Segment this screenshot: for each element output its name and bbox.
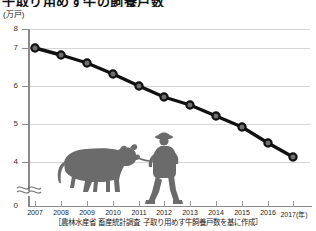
cow-silhouette — [58, 144, 140, 192]
x-tick-2014 — [216, 201, 217, 207]
gridline-5 — [28, 124, 310, 125]
axis-break-icon — [16, 183, 42, 197]
y-tick-5 — [22, 124, 28, 125]
x-tick-label-2016: 2016 — [260, 209, 276, 216]
y-tick-8 — [22, 29, 28, 30]
y-tick-7 — [22, 48, 28, 49]
x-tick-label-2014: 2014 — [208, 209, 224, 216]
farm-illustration — [52, 126, 204, 206]
x-tick-2015 — [242, 201, 243, 207]
chart-page: 子取り用めす牛の飼養戸数 (万戸) 8 7 6 5 4 0 2007 2008 … — [0, 0, 316, 231]
x-tick-2016 — [268, 201, 269, 207]
page-title: 子取り用めす牛の飼養戸数 — [2, 0, 164, 7]
x-tick-label-2009: 2009 — [79, 209, 95, 216]
gridline-6 — [28, 86, 310, 87]
x-tick-label-2010: 2010 — [105, 209, 121, 216]
farmer-silhouette — [145, 133, 183, 205]
x-axis-line — [28, 206, 312, 207]
y-tick-label-4: 4 — [4, 157, 18, 166]
source-caption: ［農林水産省 畜産統計調査 子取り用めす牛飼養戸数を基に作成］ — [0, 216, 316, 227]
page-title-strip: 子取り用めす牛の飼養戸数 — [0, 0, 316, 7]
x-tick-2007 — [35, 201, 36, 207]
x-tick-label-2007: 2007 — [27, 209, 43, 216]
y-tick-4 — [22, 162, 28, 163]
y-axis-unit-label: (万戸) — [3, 8, 24, 19]
x-tick-label-2011: 2011 — [131, 209, 146, 216]
y-tick-label-0: 0 — [4, 201, 18, 210]
gridline-7 — [28, 48, 310, 49]
y-axis-line — [28, 29, 30, 191]
y-tick-label-6: 6 — [4, 81, 18, 90]
x-tick-label-2015: 2015 — [234, 209, 250, 216]
y-tick-label-8: 8 — [4, 24, 18, 33]
x-tick-label-2013: 2013 — [182, 209, 198, 216]
y-tick-6 — [22, 86, 28, 87]
y-tick-label-5: 5 — [4, 119, 18, 128]
x-tick-label-2012: 2012 — [156, 209, 172, 216]
x-tick-2017 — [293, 201, 294, 207]
gridline-8 — [28, 29, 310, 30]
y-tick-label-7: 7 — [4, 43, 18, 52]
x-tick-label-2008: 2008 — [53, 209, 69, 216]
